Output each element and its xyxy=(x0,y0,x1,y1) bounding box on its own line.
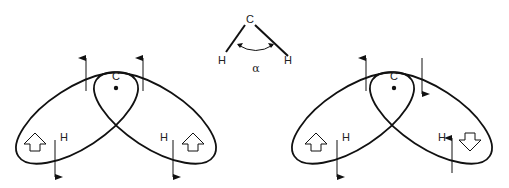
hydrogen-label-left: H xyxy=(60,131,68,143)
carbon-label: C xyxy=(390,70,398,82)
hydrogen-label-left: H xyxy=(342,131,350,143)
bond-angle-diagram: C H H α xyxy=(218,13,292,75)
left-structure: C H H xyxy=(2,55,230,182)
hollow-arrow-up-icon xyxy=(305,133,327,151)
angle-label: α xyxy=(252,62,260,75)
carbon-label: C xyxy=(112,70,120,82)
hollow-arrow-down-icon xyxy=(459,133,481,151)
bond-line-left xyxy=(226,25,245,52)
bond-angle-left-label: H xyxy=(218,54,226,66)
bond-angle-right-label: H xyxy=(284,54,292,66)
hydrogen-label-right: H xyxy=(438,131,446,143)
carbon-dot xyxy=(114,86,118,90)
carbon-dot xyxy=(392,86,396,90)
hollow-arrow-up-icon xyxy=(24,133,46,151)
bond-line-right xyxy=(255,25,288,56)
right-structure: C H H xyxy=(278,55,506,182)
angle-arc xyxy=(238,45,273,51)
hydrogen-label-right: H xyxy=(160,131,168,143)
right-lobe-ellipse xyxy=(356,55,506,182)
bond-angle-center-label: C xyxy=(246,13,254,25)
right-lobe-ellipse xyxy=(80,55,230,182)
hollow-arrow-up-icon xyxy=(182,133,204,151)
orbital-diagram: C H H α C H H C H H xyxy=(0,0,509,188)
